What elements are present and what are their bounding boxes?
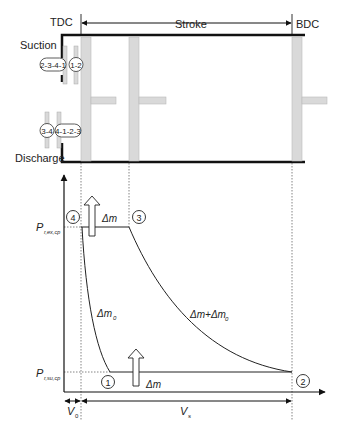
state-point-3: 3 xyxy=(133,211,146,224)
piston-tdc xyxy=(81,37,116,161)
discharge-tag-open: 3-4 xyxy=(41,127,53,136)
discharge-mass-arrow xyxy=(84,196,100,236)
svg-text:4: 4 xyxy=(70,213,75,223)
suction-tag-closed: 1-2 xyxy=(70,61,82,70)
svg-text:s: s xyxy=(188,413,191,419)
svg-text:1: 1 xyxy=(105,378,110,388)
piston-bdc xyxy=(292,37,327,161)
discharge-label: Discharge xyxy=(15,152,65,164)
delta-m-plus-delta-m0-label: Δm+Δm 0 xyxy=(189,309,229,322)
delta-m-suction-label: Δm xyxy=(145,379,161,390)
svg-text:3: 3 xyxy=(136,213,141,223)
svg-text:Δm: Δm xyxy=(96,308,112,319)
v0-dimension: V 0 xyxy=(65,401,80,419)
discharge-valve: 3-4 4-1-2-3 xyxy=(40,112,81,148)
state-point-1: 1 xyxy=(102,376,115,389)
compressor-cycle-diagram: TDC Stroke BDC Suction 2-3-4-1 1-2 3-4 4… xyxy=(0,0,346,432)
svg-text:0: 0 xyxy=(113,315,117,321)
compression-curve xyxy=(129,227,292,372)
reference-dashed-lines xyxy=(64,163,292,420)
pv-cycle xyxy=(81,227,292,372)
svg-text:P: P xyxy=(36,367,44,379)
delta-m0-label: Δm 0 xyxy=(96,308,117,321)
piston-mid xyxy=(129,37,166,161)
p-su-label: P r,su,cp xyxy=(36,367,60,381)
vs-dimension: V s xyxy=(82,401,291,419)
svg-text:r,ex,cp: r,ex,cp xyxy=(44,229,60,235)
stroke-label: Stroke xyxy=(175,18,207,30)
state-point-2: 2 xyxy=(297,375,310,388)
svg-text:0: 0 xyxy=(225,316,229,322)
suction-mass-arrow xyxy=(128,349,144,386)
suction-label: Suction xyxy=(20,39,57,51)
svg-text:2: 2 xyxy=(300,377,305,387)
p-ex-label: P r,ex,cp xyxy=(36,221,60,235)
svg-text:Δm+Δm: Δm+Δm xyxy=(189,309,226,320)
svg-text:P: P xyxy=(36,221,44,233)
bdc-label: BDC xyxy=(296,18,319,30)
suction-tag-open: 2-3-4-1 xyxy=(40,61,66,70)
delta-m-discharge-label: Δm xyxy=(101,213,117,224)
re-expansion-curve xyxy=(82,227,110,372)
state-point-4: 4 xyxy=(67,211,80,224)
discharge-tag-closed: 4-1-2-3 xyxy=(55,127,81,136)
tdc-label: TDC xyxy=(50,16,73,28)
svg-text:r,su,cp: r,su,cp xyxy=(44,375,60,381)
svg-text:0: 0 xyxy=(75,413,79,419)
